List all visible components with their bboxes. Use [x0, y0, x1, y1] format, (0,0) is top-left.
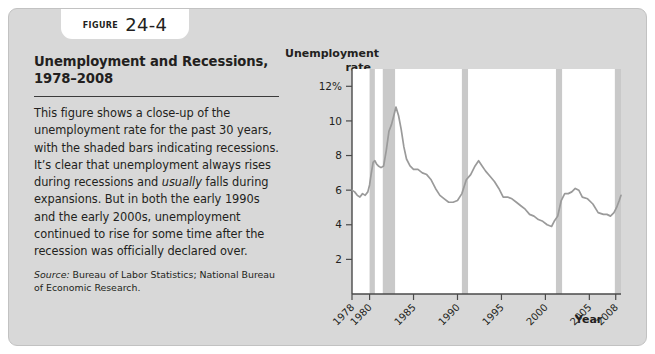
figure-source-note: Source: Bureau of Labor Statistics; Nati…: [34, 268, 279, 295]
y-axis-tick-label: 4: [335, 218, 342, 230]
recession-band: [383, 69, 395, 294]
x-axis-tick-label: 2000: [524, 302, 550, 327]
x-axis-tick-label: 1990: [436, 302, 462, 327]
x-axis-tick-label: 1985: [392, 302, 418, 327]
recession-band: [556, 69, 562, 294]
figure-number-label: 24-4: [125, 14, 167, 35]
figure-body-text: This figure shows a close-up of the unem…: [34, 105, 279, 261]
body-text-emphasis: usually: [162, 175, 202, 189]
figure-number-badge: Figure 24-4: [61, 9, 189, 39]
y-axis-tick-label: 6: [335, 184, 342, 196]
y-axis-tick-label: 12%: [319, 80, 342, 92]
x-axis-tick-label: 1995: [480, 302, 506, 327]
x-axis-tick-label: 2005: [568, 302, 594, 327]
source-label: Source:: [34, 269, 70, 280]
title-divider: [34, 96, 279, 97]
figure-word-label: Figure: [83, 17, 119, 31]
x-axis-tick-label: 2008: [594, 302, 620, 327]
y-axis-tick-label: 2: [335, 253, 342, 265]
y-axis-tick-label: 10: [329, 115, 342, 127]
figure-title: Unemployment and Recessions, 1978–2008: [34, 53, 279, 88]
unemployment-chart: Unemployment rate Year 24681012%19781980…: [285, 47, 635, 327]
figure-text-column: Unemployment and Recessions, 1978–2008 T…: [34, 53, 279, 294]
y-axis-tick-label: 8: [335, 149, 342, 161]
source-text: Bureau of Labor Statistics; National Bur…: [34, 269, 275, 293]
figure-card: Figure 24-4 Unemployment and Recessions,…: [8, 8, 647, 346]
chart-plot-svg: 24681012%1978198019851990199520002005200…: [285, 47, 635, 327]
recession-band: [615, 69, 621, 294]
